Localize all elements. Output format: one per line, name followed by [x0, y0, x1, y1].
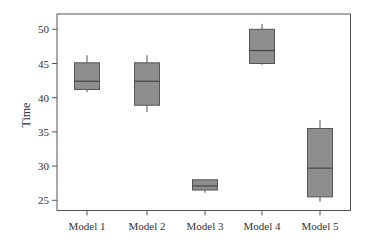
box-5: [308, 120, 333, 201]
box-plot-chart: 253035404550 Model 1Model 2Model 3Model …: [0, 0, 368, 243]
y-tick-label: 40: [38, 92, 50, 104]
y-tick-label: 45: [38, 58, 50, 70]
x-tick-label: Model 3: [187, 220, 224, 232]
y-axis: 253035404550: [38, 23, 57, 206]
boxes: [75, 24, 333, 202]
box-1: [75, 55, 100, 92]
x-tick-label: Model 5: [302, 220, 339, 232]
box-4: [250, 24, 275, 65]
iqr-box: [308, 128, 333, 196]
y-tick-label: 35: [38, 126, 50, 138]
y-tick-label: 30: [38, 160, 50, 172]
iqr-box: [135, 63, 160, 105]
y-axis-title: Time: [19, 103, 33, 128]
x-tick-label: Model 1: [69, 220, 106, 232]
y-tick-label: 50: [38, 23, 50, 35]
x-axis: Model 1Model 2Model 3Model 4Model 5: [69, 211, 339, 232]
x-tick-label: Model 2: [129, 220, 166, 232]
iqr-box: [250, 29, 275, 63]
y-tick-label: 25: [38, 194, 50, 206]
box-3: [193, 180, 218, 193]
box-2: [135, 55, 160, 112]
iqr-box: [75, 63, 100, 90]
x-tick-label: Model 4: [244, 220, 281, 232]
iqr-box: [193, 180, 218, 190]
